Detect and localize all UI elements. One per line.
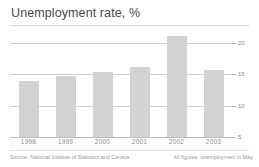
x-axis-label-2002: 2002: [158, 138, 195, 145]
bar-slot-2001: [121, 27, 158, 137]
chart-title: Unemployment rate, %: [11, 6, 140, 20]
title-divider: [10, 25, 249, 26]
footer-note: All figures: unemployment in May: [174, 154, 253, 160]
chart-footer: Source: National Institute of Statistics…: [10, 154, 253, 160]
bar-2001[interactable]: [130, 67, 150, 137]
bar-slot-1998: [10, 27, 47, 137]
y-tick-label-15: 15: [238, 71, 245, 77]
bar-2003[interactable]: [204, 70, 224, 137]
y-tick-label-5: 5: [238, 134, 241, 140]
x-axis-label-1999: 1999: [47, 138, 84, 145]
bar-1998[interactable]: [19, 81, 39, 137]
footer-divider: [10, 150, 249, 151]
y-tick-mark-15: [232, 74, 236, 75]
x-axis-label-2003: 2003: [195, 138, 232, 145]
bar-series: [10, 27, 232, 137]
y-tick-mark-10: [232, 106, 236, 107]
bar-1999[interactable]: [56, 76, 76, 137]
y-tick-mark-5: [232, 137, 236, 138]
bar-slot-2002: [158, 27, 195, 137]
bar-2002[interactable]: [167, 36, 187, 137]
y-tick-label-20: 20: [238, 40, 245, 46]
footer-source: Source: National Institute of Statistics…: [10, 154, 130, 160]
x-axis-label-1998: 1998: [10, 138, 47, 145]
x-axis-labels: 199819992000200120022003: [10, 138, 232, 145]
x-axis-label-2000: 2000: [84, 138, 121, 145]
bar-slot-2003: [195, 27, 232, 137]
y-tick-label-10: 10: [238, 103, 245, 109]
bar-2000[interactable]: [93, 72, 113, 137]
x-axis-label-2001: 2001: [121, 138, 158, 145]
bar-slot-2000: [84, 27, 121, 137]
y-tick-mark-20: [232, 43, 236, 44]
bar-slot-1999: [47, 27, 84, 137]
unemployment-rate-chart-card: Unemployment rate, % 1998199920002001200…: [0, 0, 259, 167]
